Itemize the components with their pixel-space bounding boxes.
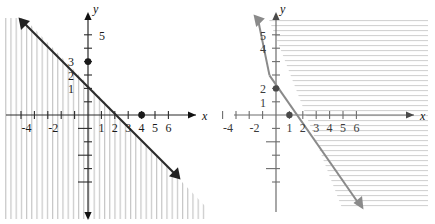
point-marker xyxy=(138,112,145,119)
y-tick-label: 5 xyxy=(99,29,105,43)
point-marker xyxy=(273,85,279,91)
y-tick-label: 4 xyxy=(260,42,266,56)
x-tick-label: 3 xyxy=(125,121,131,135)
x-tick-label: 2 xyxy=(300,121,306,135)
y-tick-label: 2 xyxy=(68,69,74,83)
x-tick-label: 4 xyxy=(139,121,145,135)
x-tick-label: 6 xyxy=(165,121,171,135)
x-tick-label: -4 xyxy=(223,121,233,135)
x-tick-label: 1 xyxy=(286,121,292,135)
x-tick-label: 1 xyxy=(98,121,104,135)
y-axis-label: y xyxy=(92,2,99,16)
y-ticks-right xyxy=(266,35,280,182)
point-marker xyxy=(286,112,292,118)
x-tick-label: -2 xyxy=(250,121,260,135)
y-tick-label: 3 xyxy=(68,55,74,69)
y-tick-label: 2 xyxy=(260,82,266,96)
y-tick-label: 1 xyxy=(68,82,74,96)
left-plot-svg: x y -4 -2 1 2 3 4 5 6 5 3 2 1 xyxy=(0,0,218,224)
y-axis-arrow-up-icon xyxy=(272,12,279,20)
x-tick-label: 5 xyxy=(152,121,158,135)
x-tick-label: -2 xyxy=(48,121,58,135)
x-tick-label: 4 xyxy=(327,121,333,135)
inequality-graph-left: x y -4 -2 1 2 3 4 5 6 5 3 2 1 xyxy=(0,0,218,224)
point-marker xyxy=(85,58,92,65)
inequality-graph-right: x y -4 -2 1 2 3 4 5 6 5 4 2 1 xyxy=(218,0,435,224)
y-axis-arrow-up-icon xyxy=(84,12,91,20)
x-tick-label: 5 xyxy=(340,121,346,135)
x-tick-label: 2 xyxy=(112,121,118,135)
y-tick-label: 1 xyxy=(260,96,266,110)
y-tick-label: 5 xyxy=(260,29,266,43)
x-tick-label: 6 xyxy=(353,121,359,135)
x-tick-label: 3 xyxy=(313,121,319,135)
figure-canvas: x y -4 -2 1 2 3 4 5 6 5 3 2 1 xyxy=(0,0,435,224)
x-axis-label: x xyxy=(201,109,208,123)
y-axis-label: y xyxy=(279,2,286,16)
shaded-region-right xyxy=(268,17,428,208)
right-plot-svg: x y -4 -2 1 2 3 4 5 6 5 4 2 1 xyxy=(218,0,435,224)
x-tick-label: -4 xyxy=(21,121,31,135)
x-axis-label: x xyxy=(419,109,426,123)
x-axis-arrow-icon xyxy=(188,111,196,118)
